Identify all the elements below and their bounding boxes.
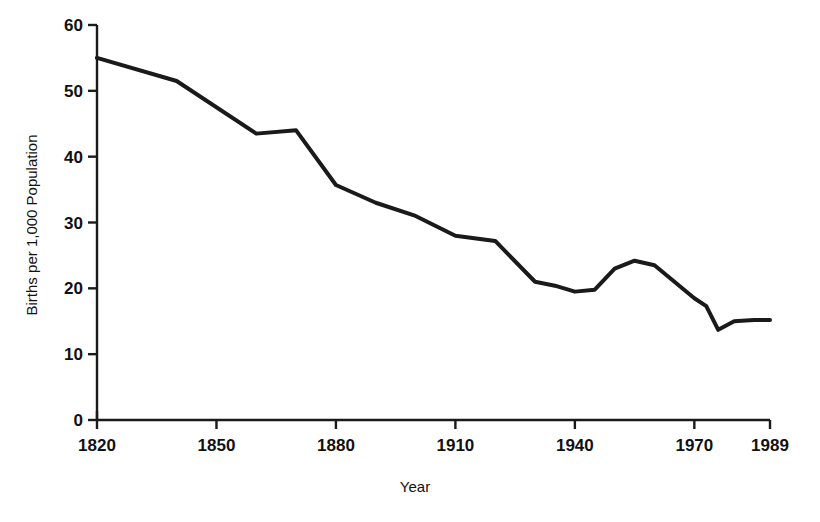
x-tick-label-1820: 1820: [78, 436, 116, 455]
y-tick-label-10: 10: [64, 345, 83, 364]
chart-figure: 0102030405060 18201850188019101940197019…: [0, 0, 820, 522]
y-tick-label-50: 50: [64, 82, 83, 101]
y-tick-label-0: 0: [74, 411, 83, 430]
y-tick-label-60: 60: [64, 16, 83, 35]
x-tick-label-1940: 1940: [556, 436, 594, 455]
x-tick-label-1850: 1850: [198, 436, 236, 455]
x-tick-label-1989: 1989: [751, 436, 789, 455]
y-tick-label-20: 20: [64, 279, 83, 298]
x-tick-label-1970: 1970: [675, 436, 713, 455]
y-axis-title: Births per 1,000 Population: [23, 135, 40, 316]
y-tick-label-30: 30: [64, 214, 83, 233]
x-tick-label-1910: 1910: [436, 436, 474, 455]
birth-rate-line-chart: 0102030405060 18201850188019101940197019…: [0, 0, 820, 522]
y-tick-label-40: 40: [64, 148, 83, 167]
x-tick-label-1880: 1880: [317, 436, 355, 455]
x-axis-title: Year: [400, 478, 430, 495]
